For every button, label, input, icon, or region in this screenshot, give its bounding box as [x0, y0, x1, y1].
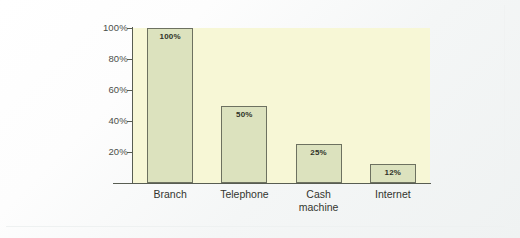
bar-chart: 100%80%60%40%20% 100%50%25%12% BranchTel… [0, 0, 520, 238]
y-axis-tick-label: 100% [88, 23, 128, 33]
y-axis-tick-mark [127, 90, 132, 91]
y-axis-tick-label: 20% [88, 147, 128, 157]
y-axis-tick-mark [127, 28, 132, 29]
y-axis-tick-label: 80% [88, 54, 128, 64]
x-axis-category-label: Branch [133, 188, 207, 201]
x-axis-category-label: Cashmachine [282, 188, 356, 214]
chart-canvas: 100%80%60%40%20% 100%50%25%12% BranchTel… [0, 0, 520, 238]
bar-value-label: 100% [148, 32, 192, 41]
x-axis-category-label-line: Telephone [207, 188, 281, 201]
x-axis-category-label-line: Branch [133, 188, 207, 201]
x-axis-category-label: Internet [356, 188, 430, 201]
bar-slot: 12% [370, 28, 416, 183]
y-axis-tick-label: 40% [88, 116, 128, 126]
bar-slot: 100% [147, 28, 193, 183]
x-axis-category-label-line: machine [282, 201, 356, 214]
y-axis-tick-mark [127, 152, 132, 153]
bar-value-label: 25% [297, 148, 341, 157]
x-axis-category-label-line: Cash [282, 188, 356, 201]
bar-slot: 25% [296, 28, 342, 183]
y-axis-tick-label: 60% [88, 85, 128, 95]
bar[interactable]: 25% [296, 144, 342, 183]
bar-value-label: 12% [371, 168, 415, 177]
x-axis-line [113, 183, 431, 184]
y-axis-tick-mark [127, 121, 132, 122]
x-axis-category-label-line: Internet [356, 188, 430, 201]
x-axis-category-labels: BranchTelephoneCashmachineInternet [133, 188, 430, 233]
bar-slot: 50% [221, 28, 267, 183]
y-axis-tick-mark [127, 59, 132, 60]
bar-value-label: 50% [222, 110, 266, 119]
y-axis-tick-labels: 100%80%60%40%20% [84, 0, 128, 238]
bar[interactable]: 50% [221, 106, 267, 184]
bar[interactable]: 12% [370, 164, 416, 183]
bar-series: 100%50%25%12% [133, 28, 430, 183]
bar[interactable]: 100% [147, 28, 193, 183]
x-axis-category-label: Telephone [207, 188, 281, 201]
